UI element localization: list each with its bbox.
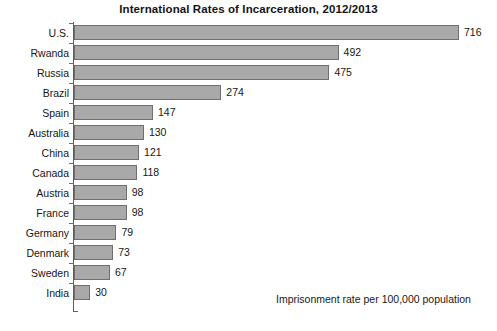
bar-value-label: 67 (115, 264, 127, 281)
category-label: Rwanda (0, 43, 69, 63)
y-axis-foot (73, 311, 78, 312)
bar-value-label: 121 (144, 144, 162, 161)
bar (74, 185, 127, 200)
axis-tick (69, 83, 74, 84)
axis-tick (69, 123, 74, 124)
bar-row: Germany79 (0, 223, 497, 243)
axis-tick (69, 263, 74, 264)
bar (74, 145, 139, 160)
category-label: Sweden (0, 263, 69, 283)
bar (74, 125, 144, 140)
bar-value-label: 130 (149, 124, 167, 141)
bar-value-label: 716 (464, 24, 482, 41)
category-label: Canada (0, 163, 69, 183)
bar-row: U.S.716 (0, 23, 497, 43)
bar (74, 225, 116, 240)
axis-tick (69, 203, 74, 204)
bar (74, 265, 110, 280)
axis-tick (69, 103, 74, 104)
bar-row: Brazil274 (0, 83, 497, 103)
bar (74, 65, 329, 80)
bar (74, 25, 459, 40)
category-label: Brazil (0, 83, 69, 103)
bar-row: Canada118 (0, 163, 497, 183)
bar (74, 165, 137, 180)
axis-tick (69, 223, 74, 224)
plot-area: U.S.716Rwanda492Russia475Brazil274Spain1… (0, 22, 497, 312)
bar-value-label: 147 (158, 104, 176, 121)
bar (74, 45, 339, 60)
chart-annotation: Imprisonment rate per 100,000 population (276, 293, 471, 305)
bar (74, 245, 113, 260)
bar-row: Russia475 (0, 63, 497, 83)
category-label: Russia (0, 63, 69, 83)
category-label: U.S. (0, 23, 69, 43)
category-label: France (0, 203, 69, 223)
bar-row: Spain147 (0, 103, 497, 123)
category-label: Denmark (0, 243, 69, 263)
bar (74, 205, 127, 220)
bar-value-label: 118 (142, 164, 159, 181)
axis-tick (69, 283, 74, 284)
bar-row: Sweden67 (0, 263, 497, 283)
bar-row: Austria98 (0, 183, 497, 203)
category-label: Spain (0, 103, 69, 123)
bar-value-label: 79 (121, 224, 133, 241)
bar-row: Rwanda492 (0, 43, 497, 63)
axis-tick (69, 163, 74, 164)
axis-tick (69, 143, 74, 144)
chart-title: International Rates of Incarceration, 20… (0, 3, 497, 15)
category-label: Australia (0, 123, 69, 143)
bar-value-label: 98 (132, 204, 144, 221)
bar-value-label: 30 (95, 284, 107, 301)
category-label: Austria (0, 183, 69, 203)
bar (74, 285, 90, 300)
category-label: India (0, 283, 69, 303)
category-label: Germany (0, 223, 69, 243)
bar-row: France98 (0, 203, 497, 223)
category-label: China (0, 143, 69, 163)
bar-value-label: 475 (334, 64, 352, 81)
bar-value-label: 98 (132, 184, 144, 201)
bar-row: Australia130 (0, 123, 497, 143)
bar-value-label: 73 (118, 244, 130, 261)
axis-tick (69, 183, 74, 184)
bar (74, 105, 153, 120)
bar-value-label: 492 (344, 44, 362, 61)
axis-tick (69, 63, 74, 64)
axis-tick (69, 43, 74, 44)
axis-tick (69, 243, 74, 244)
axis-tick (69, 23, 74, 24)
bar-row: China121 (0, 143, 497, 163)
bar-value-label: 274 (226, 84, 244, 101)
bar-row: Denmark73 (0, 243, 497, 263)
bar (74, 85, 221, 100)
